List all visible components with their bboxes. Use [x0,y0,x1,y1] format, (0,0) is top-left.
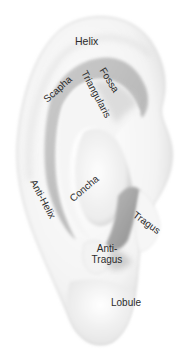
label-anti-tragus: Anti- Tragus [89,244,125,265]
ear-diagram: Helix Scapha Fossa Triangularis Concha A… [0,0,184,350]
label-anti-tragus-line2: Tragus [89,255,125,265]
label-anti-tragus-line1: Anti- [89,244,125,254]
lobule-shape [67,279,134,344]
label-lobule: Lobule [111,298,141,308]
label-helix: Helix [75,36,98,47]
